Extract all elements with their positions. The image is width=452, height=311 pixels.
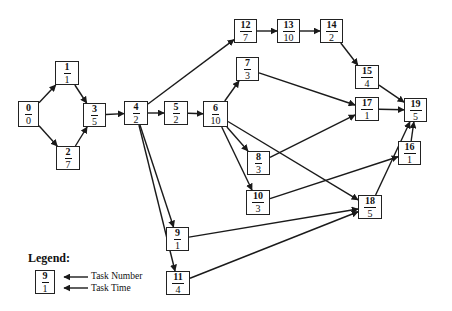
task-time: 3 xyxy=(256,203,261,214)
edge-0-to-1 xyxy=(39,85,56,103)
task-time: 3 xyxy=(245,70,250,81)
legend-sample-node: 9 1 xyxy=(35,270,55,294)
task-node-11: 114 xyxy=(166,271,190,295)
task-node-19: 195 xyxy=(404,98,427,122)
task-node-7: 73 xyxy=(236,57,259,81)
task-number: 0 xyxy=(25,103,32,115)
task-node-18: 185 xyxy=(358,195,382,219)
edge-15-to-19 xyxy=(379,85,404,102)
task-time: 4 xyxy=(365,78,370,89)
task-number: 1 xyxy=(64,62,71,74)
task-number: 14 xyxy=(326,20,338,32)
task-node-13: 1310 xyxy=(277,19,300,43)
edge-6-to-8 xyxy=(227,127,248,151)
edge-14-to-15 xyxy=(341,43,358,65)
task-number: 13 xyxy=(283,20,295,32)
task-time: 5 xyxy=(368,208,373,219)
task-time: 7 xyxy=(243,32,248,43)
task-number: 12 xyxy=(240,20,252,32)
task-node-8: 83 xyxy=(247,151,270,175)
task-number: 2 xyxy=(65,147,72,159)
task-number: 15 xyxy=(361,66,373,78)
task-time: 2 xyxy=(134,114,139,125)
task-time: 7 xyxy=(66,159,71,170)
edge-2-to-3 xyxy=(75,127,87,146)
task-time: 1 xyxy=(407,154,412,165)
task-number: 3 xyxy=(91,104,98,116)
task-number: 16 xyxy=(404,142,416,154)
task-time: 1 xyxy=(65,74,70,85)
task-node-6: 610 xyxy=(203,101,228,127)
edge-6-to-7 xyxy=(225,81,239,101)
edge-17-to-19 xyxy=(379,109,404,110)
task-number: 11 xyxy=(172,272,183,284)
task-number: 4 xyxy=(133,102,140,114)
task-node-0: 00 xyxy=(18,101,39,127)
task-node-2: 27 xyxy=(56,146,80,170)
task-number: 10 xyxy=(252,191,264,203)
task-time: 10 xyxy=(211,115,221,126)
edge-0-to-2 xyxy=(39,126,57,146)
task-time: 3 xyxy=(256,164,261,175)
task-node-15: 154 xyxy=(355,65,379,89)
edge-4-to-9 xyxy=(140,125,174,227)
legend-title: Legend: xyxy=(28,251,70,266)
task-number: 9 xyxy=(174,228,181,240)
task-number: 7 xyxy=(244,58,251,70)
task-node-14: 142 xyxy=(320,19,343,43)
edge-1-to-3 xyxy=(75,85,87,103)
task-node-12: 127 xyxy=(234,19,257,43)
task-node-10: 103 xyxy=(246,190,270,215)
task-time: 1 xyxy=(175,240,180,251)
task-number: 18 xyxy=(364,196,376,208)
task-number: 19 xyxy=(410,99,422,111)
task-time: 0 xyxy=(26,115,31,126)
task-time: 1 xyxy=(365,110,370,121)
edge-11-to-18 xyxy=(190,212,358,279)
task-node-1: 11 xyxy=(55,61,79,85)
legend-sample-number: 9 xyxy=(42,271,49,283)
task-time: 2 xyxy=(174,114,179,125)
edge-8-to-17 xyxy=(270,115,355,157)
task-time: 2 xyxy=(329,32,334,43)
task-time: 5 xyxy=(92,116,97,127)
task-time: 10 xyxy=(284,32,294,43)
task-node-4: 42 xyxy=(124,101,148,125)
task-node-5: 52 xyxy=(164,101,188,125)
legend-task-number-label: Task Number xyxy=(91,271,142,281)
edge-9-to-18 xyxy=(189,209,358,237)
edge-4-to-12 xyxy=(148,40,234,104)
task-node-3: 35 xyxy=(83,103,106,127)
legend-task-time-label: Task Time xyxy=(91,283,131,293)
edge-7-to-17 xyxy=(259,73,355,105)
edge-3-to-4 xyxy=(106,114,124,115)
task-node-16: 161 xyxy=(398,141,421,165)
task-node-9: 91 xyxy=(166,227,189,251)
edge-10-to-16 xyxy=(270,157,398,199)
task-number: 5 xyxy=(173,102,180,114)
legend-sample-time: 1 xyxy=(43,283,48,294)
task-number: 6 xyxy=(212,103,219,115)
task-time: 4 xyxy=(176,284,181,295)
task-time: 5 xyxy=(413,111,418,122)
task-node-17: 171 xyxy=(355,97,379,121)
task-number: 17 xyxy=(361,98,373,110)
edge-16-to-19 xyxy=(411,122,414,141)
task-number: 8 xyxy=(255,152,262,164)
